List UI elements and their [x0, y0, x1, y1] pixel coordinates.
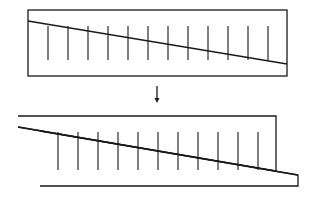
upper-wedge-outline — [18, 116, 276, 171]
bottom-block-displaced — [18, 116, 298, 186]
diagram-canvas — [0, 0, 313, 198]
down-arrow-icon — [155, 86, 160, 103]
lower-wedge-outline — [40, 131, 298, 186]
arrow-head — [155, 98, 160, 103]
diagram-svg — [0, 0, 313, 198]
top-block — [28, 10, 287, 76]
